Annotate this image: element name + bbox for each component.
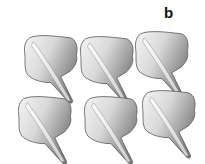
panel-label: b <box>164 4 173 21</box>
specimen-illustration <box>14 93 76 164</box>
specimen-illustration <box>138 87 200 161</box>
specimen-illustration <box>80 93 142 164</box>
